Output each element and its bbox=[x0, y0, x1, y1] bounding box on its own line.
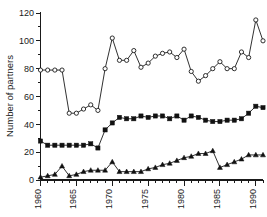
data-point-marker bbox=[125, 117, 129, 121]
data-point-marker bbox=[139, 114, 143, 118]
data-point-marker bbox=[239, 117, 243, 121]
data-point-marker bbox=[218, 119, 222, 123]
data-point-marker bbox=[132, 117, 136, 121]
series-layer bbox=[38, 18, 266, 179]
data-point-marker bbox=[103, 128, 107, 132]
data-point-marker bbox=[160, 114, 164, 118]
data-point-marker bbox=[117, 58, 121, 62]
x-tick-label: 1990 bbox=[248, 189, 258, 209]
y-tick-label: 20 bbox=[24, 147, 34, 157]
data-point-marker bbox=[46, 68, 50, 72]
data-point-marker bbox=[160, 51, 164, 55]
y-tick-label: 100 bbox=[19, 36, 34, 46]
data-point-marker bbox=[261, 106, 265, 110]
data-point-marker bbox=[182, 47, 186, 51]
data-point-marker bbox=[218, 60, 222, 64]
data-point-marker bbox=[110, 36, 114, 40]
y-tick-label: 120 bbox=[19, 8, 34, 18]
data-point-marker bbox=[175, 114, 179, 118]
data-point-marker bbox=[232, 118, 236, 122]
data-point-marker bbox=[117, 115, 121, 119]
series-open-circle-series bbox=[38, 18, 265, 115]
data-point-marker bbox=[182, 118, 186, 122]
data-point-marker bbox=[239, 157, 244, 162]
data-point-marker bbox=[175, 55, 179, 59]
x-tick-label: 1965 bbox=[68, 189, 78, 209]
data-point-marker bbox=[189, 114, 193, 118]
y-axis-title: Number of partners bbox=[4, 55, 15, 137]
data-point-marker bbox=[232, 67, 236, 71]
data-point-marker bbox=[153, 54, 157, 58]
data-point-marker bbox=[103, 67, 107, 71]
series-filled-triangle-series bbox=[38, 148, 266, 179]
data-point-marker bbox=[60, 68, 64, 72]
data-point-marker bbox=[196, 79, 200, 83]
data-point-marker bbox=[60, 143, 64, 147]
x-tick-label: 1975 bbox=[140, 189, 150, 209]
y-tick-label: 80 bbox=[24, 64, 34, 74]
data-point-marker bbox=[203, 74, 207, 78]
data-point-marker bbox=[38, 139, 42, 143]
data-point-marker bbox=[89, 103, 93, 107]
x-tick-label: 1985 bbox=[212, 189, 222, 209]
data-point-marker bbox=[46, 143, 50, 147]
data-point-marker bbox=[247, 111, 251, 115]
data-point-marker bbox=[110, 121, 114, 125]
data-point-marker bbox=[89, 142, 93, 146]
data-point-marker bbox=[81, 107, 85, 111]
data-point-marker bbox=[74, 143, 78, 147]
data-point-marker bbox=[96, 146, 100, 150]
data-point-marker bbox=[196, 115, 200, 119]
data-point-marker bbox=[210, 148, 215, 153]
data-point-marker bbox=[110, 159, 115, 164]
number-of-partners-line-chart: Number of partners 020406080100120 19601… bbox=[0, 0, 267, 217]
data-point-marker bbox=[189, 69, 193, 73]
y-axis-label: Number of partners bbox=[4, 55, 15, 137]
data-point-marker bbox=[254, 18, 258, 22]
data-point-marker bbox=[254, 104, 258, 108]
data-point-marker bbox=[239, 50, 243, 54]
chart-container: Number of partners 020406080100120 19601… bbox=[0, 0, 267, 217]
data-point-marker bbox=[38, 68, 42, 72]
data-point-marker bbox=[81, 143, 85, 147]
data-point-marker bbox=[225, 67, 229, 71]
data-point-marker bbox=[146, 115, 150, 119]
data-point-marker bbox=[168, 117, 172, 121]
data-point-marker bbox=[67, 111, 71, 115]
data-point-marker bbox=[132, 48, 136, 52]
data-point-marker bbox=[60, 163, 65, 168]
data-point-marker bbox=[146, 61, 150, 65]
data-point-marker bbox=[261, 39, 265, 43]
data-point-marker bbox=[211, 67, 215, 71]
data-point-marker bbox=[74, 111, 78, 115]
y-tick-label: 40 bbox=[24, 120, 34, 130]
x-tick-label: 1970 bbox=[104, 189, 114, 209]
y-tick-label: 60 bbox=[24, 92, 34, 102]
data-point-marker bbox=[247, 55, 251, 59]
data-point-marker bbox=[203, 118, 207, 122]
data-point-marker bbox=[67, 143, 71, 147]
data-point-marker bbox=[96, 108, 100, 112]
series-filled-square-series bbox=[38, 104, 265, 150]
x-axis: 1960196519701975198019851990 bbox=[33, 180, 264, 209]
data-point-marker bbox=[53, 143, 57, 147]
y-tick-label: 0 bbox=[29, 175, 34, 185]
x-tick-label: 1980 bbox=[176, 189, 186, 209]
data-point-marker bbox=[139, 65, 143, 69]
data-point-marker bbox=[211, 119, 215, 123]
data-point-marker bbox=[153, 114, 157, 118]
y-axis: 020406080100120 bbox=[19, 8, 41, 185]
data-point-marker bbox=[53, 68, 57, 72]
x-tick-label: 1960 bbox=[33, 189, 43, 209]
data-point-marker bbox=[125, 58, 129, 62]
data-point-marker bbox=[225, 118, 229, 122]
data-point-marker bbox=[168, 50, 172, 54]
